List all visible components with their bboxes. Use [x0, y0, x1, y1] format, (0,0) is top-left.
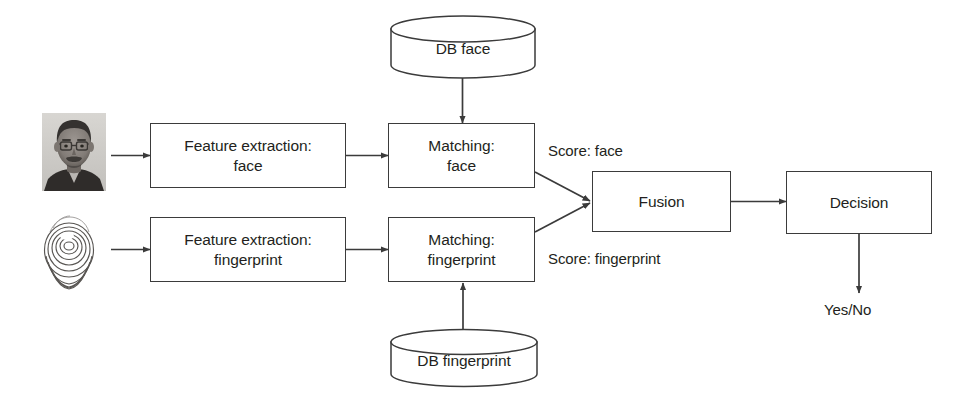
fingerprint-sample	[42, 212, 100, 290]
feature-extraction-fingerprint-box[interactable]: Feature extraction: fingerprint	[150, 217, 346, 282]
feature-extraction-face-box[interactable]: Feature extraction: face	[150, 123, 346, 188]
output-yes-no-label: Yes/No	[824, 301, 871, 318]
fusion-box[interactable]: Fusion	[592, 171, 731, 232]
db-fingerprint-label: DB fingerprint	[391, 352, 537, 370]
matching-fingerprint-label: Matching: fingerprint	[428, 230, 496, 270]
score-fingerprint-label: Score: fingerprint	[548, 250, 660, 267]
fusion-label: Fusion	[639, 192, 685, 212]
decision-label: Decision	[830, 193, 889, 213]
feature-extraction-face-label: Feature extraction: face	[184, 136, 311, 176]
db-face-label: DB face	[391, 40, 535, 58]
diagram-canvas: DB face DB fingerprint Feature extractio…	[0, 0, 970, 403]
matching-fingerprint-box[interactable]: Matching: fingerprint	[388, 217, 535, 282]
matching-face-label: Matching: face	[428, 136, 494, 176]
arrow-matching-fingerprint-to-fusion	[535, 203, 590, 232]
arrow-matching-face-to-fusion	[535, 172, 590, 201]
face-photo-sample	[42, 113, 106, 191]
score-face-label: Score: face	[548, 142, 623, 159]
feature-extraction-fingerprint-label: Feature extraction: fingerprint	[184, 230, 311, 270]
decision-box[interactable]: Decision	[786, 171, 932, 234]
matching-face-box[interactable]: Matching: face	[388, 123, 535, 188]
